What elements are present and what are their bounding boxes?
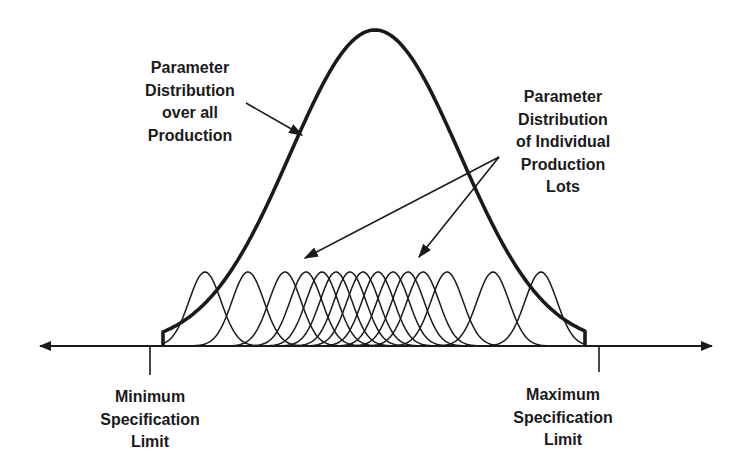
label-line: of Individual <box>516 131 610 154</box>
individual-lot-distribution-curves <box>163 272 585 346</box>
minimum-specification-limit-label: Minimum Specification Limit <box>100 386 200 454</box>
label-line: Parameter <box>145 57 235 80</box>
label-line: Distribution <box>516 109 610 132</box>
lot-distribution-pointer-arrow <box>419 157 499 257</box>
diagram-canvas: Parameter Distribution over all Producti… <box>0 0 738 469</box>
maximum-specification-limit-label: Maximum Specification Limit <box>513 384 613 452</box>
label-line: Maximum <box>513 384 613 407</box>
label-line: Minimum <box>100 386 200 409</box>
label-line: Lots <box>516 176 610 199</box>
label-line: over all <box>145 102 235 125</box>
label-line: Specification <box>513 407 613 430</box>
label-line: Production <box>516 154 610 177</box>
label-line: Specification <box>100 409 200 432</box>
label-line: Production <box>145 125 235 148</box>
overall-distribution-pointer-arrow <box>246 103 302 135</box>
label-line: Limit <box>513 429 613 452</box>
label-line: Limit <box>100 431 200 454</box>
lot-distribution-curve <box>163 272 585 346</box>
overall-distribution-label: Parameter Distribution over all Producti… <box>145 57 235 147</box>
label-line: Distribution <box>145 80 235 103</box>
individual-lots-distribution-label: Parameter Distribution of Individual Pro… <box>516 86 610 199</box>
label-line: Parameter <box>516 86 610 109</box>
lot-distribution-pointer-arrow <box>305 157 499 258</box>
